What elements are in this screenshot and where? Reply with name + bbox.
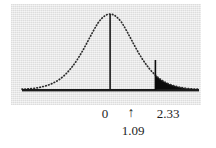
label-test-statistic: 1.09 bbox=[113, 124, 153, 138]
tail-boundary-line bbox=[155, 60, 157, 90]
label-critical-value: 2.33 bbox=[148, 107, 188, 121]
center-vertical-line bbox=[109, 14, 111, 90]
plot-panel bbox=[11, 4, 201, 105]
up-arrow-icon: ↑ bbox=[123, 106, 139, 120]
normal-curve-svg bbox=[11, 4, 201, 105]
label-zero: 0 bbox=[96, 107, 114, 121]
figure-root: 0 ↑ 2.33 1.09 bbox=[0, 0, 216, 148]
